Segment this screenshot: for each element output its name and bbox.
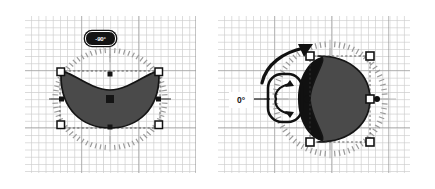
dial-tick — [147, 132, 151, 136]
dial-tick — [343, 149, 344, 155]
dial-tick — [289, 58, 293, 62]
handle-corner-tl-left-panel — [57, 68, 65, 76]
dial-tick — [375, 70, 380, 73]
handle-edge-top-left-panel — [108, 72, 113, 77]
handle-corner-tr-left-panel — [155, 68, 163, 76]
dial-tick — [297, 142, 300, 147]
dial-tick — [160, 111, 166, 112]
dial-tick — [379, 79, 384, 81]
dial-tick — [339, 42, 340, 48]
dial-tick — [86, 53, 88, 58]
dial-tick — [90, 142, 92, 147]
handle-corner-tl-right-panel — [306, 52, 314, 60]
dial-tick — [73, 134, 77, 138]
dial-tick — [373, 129, 378, 132]
dial-tick — [325, 151, 326, 157]
dial-tick — [343, 43, 344, 49]
crescent-shape-right — [310, 56, 370, 142]
dial-tick — [100, 49, 101, 54]
dial-tick — [86, 141, 88, 146]
dial-tick — [90, 51, 92, 56]
dial-tick — [320, 150, 321, 156]
dial-tick — [356, 144, 359, 149]
dial-tick — [274, 112, 280, 113]
dial-tick — [280, 125, 285, 128]
dial-tick — [297, 52, 300, 57]
rotation-pivot-right-panel — [304, 96, 310, 102]
dial-tick — [161, 90, 167, 91]
dial-tick — [348, 45, 350, 50]
dial-tick — [81, 139, 84, 143]
rotation-before-panel[interactable]: -90° — [25, 16, 196, 173]
dial-tick — [375, 125, 380, 128]
dial-tick — [128, 142, 130, 147]
dial-tick — [95, 143, 96, 148]
dial-tick — [370, 62, 374, 66]
dial-tick — [100, 144, 101, 149]
dial-tick — [293, 55, 297, 59]
dial-tick — [54, 86, 60, 87]
dial-tick — [147, 63, 151, 67]
dial-tick — [95, 50, 96, 55]
dial-tick — [140, 137, 143, 141]
dial-tick — [150, 129, 154, 132]
dial-tick — [370, 132, 374, 136]
rotation-cursor-arrowhead-bottom — [285, 111, 294, 118]
dial-tick — [382, 104, 388, 105]
dial-tick — [53, 107, 59, 108]
dial-tick — [315, 149, 316, 155]
dial-tick — [276, 79, 281, 81]
dial-tick — [136, 55, 139, 59]
handle-edge-right-left-panel — [156, 97, 161, 102]
dial-tick — [310, 148, 312, 153]
dial-tick — [382, 94, 388, 95]
dial-tick — [66, 66, 70, 69]
handle-corner-bl-right-panel — [306, 138, 314, 146]
angle-badge-left: -90° — [85, 31, 116, 46]
handle-edge-bottom-left-panel — [108, 125, 113, 130]
handle-corner-bl-left-panel — [57, 121, 65, 129]
rotation-cursor-arrowhead-top — [285, 80, 294, 87]
dial-tick — [143, 60, 147, 64]
dial-tick — [73, 60, 77, 64]
handle-corner-tr-right-panel — [366, 52, 374, 60]
rotation-cursor-widget — [268, 74, 302, 122]
dial-tick — [128, 51, 130, 56]
dial-tick — [140, 57, 143, 61]
dial-tick — [280, 70, 285, 73]
dial-tick — [380, 84, 386, 85]
dial-tick — [69, 63, 73, 67]
comparison-stage: -90° — [0, 0, 435, 189]
rotation-cursor-frame — [268, 74, 302, 122]
dial-tick — [132, 53, 134, 58]
dial-tick — [301, 144, 304, 149]
dial-tick — [320, 42, 321, 48]
dial-tick — [123, 50, 124, 55]
dial-tick — [286, 132, 290, 136]
dial-tick — [335, 151, 336, 157]
rotation-after-panel[interactable]: 0° — [218, 16, 410, 173]
dial-tick — [356, 49, 359, 54]
dial-tick — [315, 43, 316, 49]
dial-tick — [66, 129, 70, 132]
dial-tick — [325, 42, 326, 48]
handle-edge-right-right-panel — [366, 95, 374, 103]
dial-tick — [352, 146, 354, 151]
angle-badge-right: 0° — [229, 92, 253, 108]
dial-tick — [377, 121, 382, 123]
dial-tick — [306, 146, 308, 151]
dial-tick — [119, 144, 120, 149]
dial-tick — [381, 108, 387, 109]
dial-tick — [348, 148, 350, 153]
dial-tick — [105, 145, 106, 150]
handle-corner-br-right-panel — [366, 138, 374, 146]
dial-tick — [150, 66, 154, 69]
angle-badge-right-text: 0° — [237, 96, 245, 105]
dial-tick — [379, 117, 384, 119]
dial-tick — [274, 84, 280, 85]
dial-tick — [289, 136, 293, 140]
dial-tick — [380, 112, 386, 113]
dial-tick — [119, 49, 120, 54]
dial-tick — [54, 111, 60, 112]
handle-corner-br-left-panel — [155, 121, 163, 129]
